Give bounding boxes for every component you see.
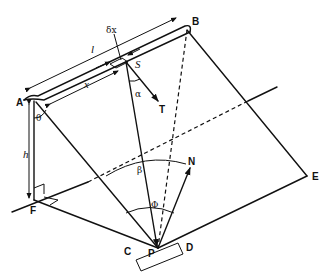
label-D: D: [186, 242, 193, 253]
right-angle-vertical: [34, 184, 44, 194]
label-C: C: [124, 246, 131, 257]
label-T: T: [159, 104, 165, 115]
label-B: B: [192, 16, 199, 27]
beta-arc: [106, 160, 186, 176]
length-l-arrow: [30, 18, 176, 88]
label-P: P: [148, 248, 155, 259]
label-dx: δx: [106, 25, 117, 35]
label-phi: Φ: [151, 200, 158, 210]
ground-line-left: [12, 182, 88, 212]
label-beta: β: [137, 165, 142, 175]
dx-left-arrow: [96, 62, 110, 68]
label-h: h: [23, 148, 29, 160]
element-dx: [110, 58, 128, 68]
normal-N-arrow: [158, 168, 190, 248]
tube-bottom-edge: [24, 32, 190, 100]
label-F: F: [30, 205, 36, 216]
label-alpha: α: [135, 89, 141, 99]
line-BE: [187, 30, 307, 176]
ground-line-right: [248, 87, 277, 101]
line-EP: [158, 176, 307, 248]
line-FP: [34, 200, 158, 248]
label-l: l: [91, 43, 94, 55]
label-E: E: [312, 171, 319, 182]
line-AP: [36, 102, 158, 248]
label-x: x: [83, 78, 89, 90]
alpha-arc: [129, 79, 140, 81]
label-N: N: [188, 156, 195, 167]
line-SP: [126, 62, 157, 246]
label-S: S: [135, 58, 141, 70]
light-source-diagram: A B S T N P C D E F l x δx h θ α β Φ: [0, 0, 329, 276]
label-theta: θ: [36, 113, 41, 123]
label-A: A: [16, 97, 23, 108]
